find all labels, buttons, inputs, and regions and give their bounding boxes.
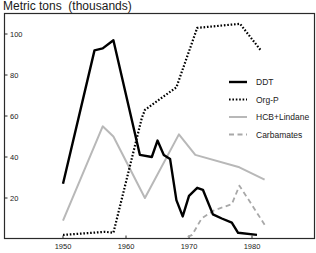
x-axis-ticks: 1950196019701980: [55, 236, 261, 252]
line-chart: 20406080100 1950196019701980 DDTOrg-PHCB…: [0, 0, 316, 253]
y-tick-label: 100: [10, 30, 23, 39]
y-axis-ticks: 20406080100: [5, 30, 23, 203]
y-tick-label: 80: [10, 71, 18, 80]
series-line-carbamates: [188, 186, 265, 237]
x-tick-label: 1980: [244, 242, 261, 251]
legend-label: Org-P: [256, 95, 279, 105]
series-line-hcb-lindane: [63, 126, 265, 220]
series-lines: [63, 24, 265, 237]
plot-frame: [5, 14, 315, 239]
legend-label: DDT: [256, 77, 273, 87]
y-tick-label: 20: [10, 194, 18, 203]
x-tick-label: 1950: [55, 242, 72, 251]
x-tick-label: 1970: [181, 242, 198, 251]
x-tick-label: 1960: [118, 242, 135, 251]
legend: DDTOrg-PHCB+LindaneCarbamates: [229, 77, 309, 140]
legend-label: Carbamates: [256, 130, 302, 140]
legend-label: HCB+Lindane: [256, 112, 309, 122]
y-tick-label: 40: [10, 153, 18, 162]
y-tick-label: 60: [10, 112, 18, 121]
